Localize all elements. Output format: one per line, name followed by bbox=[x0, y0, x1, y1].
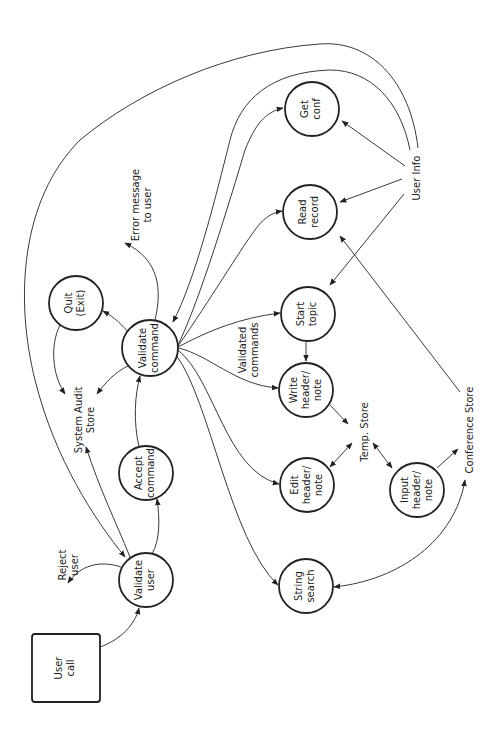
label-reject-user-line-2: user bbox=[69, 553, 80, 576]
label-validated-commands-line-1: Validated bbox=[237, 327, 248, 374]
label-conference-store: Conference Store bbox=[464, 387, 475, 474]
node-quit-line-1: Quit bbox=[63, 292, 74, 313]
edge-conference-to-read bbox=[340, 236, 460, 392]
edge-user-info-to-read bbox=[340, 179, 402, 202]
node-read-record[interactable]: Read record bbox=[283, 185, 337, 239]
node-get-conf-line-1: Get bbox=[299, 100, 310, 118]
node-get-conf-line-2: conf bbox=[311, 98, 322, 120]
edge-user-info-to-get-conf bbox=[342, 121, 405, 166]
edge-validate-command-to-quit bbox=[103, 311, 128, 332]
node-user-call[interactable]: User call bbox=[32, 634, 100, 702]
node-read-record-line-2: record bbox=[309, 196, 320, 228]
node-validate-command-line-2: command bbox=[149, 323, 160, 373]
edge-user-call-to-validate-user bbox=[100, 608, 139, 647]
edge-validate-user-to-accept bbox=[152, 499, 159, 554]
label-user-info: User Info bbox=[411, 156, 422, 201]
node-input-header-line-2: header/ bbox=[411, 470, 422, 509]
node-write-header-line-2: header/ bbox=[300, 370, 311, 409]
node-validate-user-line-2: user bbox=[145, 568, 156, 591]
node-validate-command[interactable]: Validate command bbox=[122, 320, 178, 376]
node-quit[interactable]: Quit (Exit) bbox=[49, 276, 103, 330]
edge-edit-temp bbox=[330, 443, 352, 467]
label-reject-user-line-1: Reject bbox=[57, 549, 68, 580]
edge-validate-command-to-error bbox=[125, 243, 158, 320]
label-validated-commands-line-2: commands bbox=[249, 322, 260, 377]
label-system-audit-line-2: Store bbox=[85, 407, 96, 433]
node-input-header-note[interactable]: Input header/ note bbox=[390, 463, 444, 517]
node-edit-header-note[interactable]: Edit header/ note bbox=[280, 458, 334, 512]
label-conference-store-text: Conference Store bbox=[464, 387, 475, 474]
label-error-message-line-2: to user bbox=[142, 187, 153, 223]
label-user-info-text: User Info bbox=[411, 156, 422, 201]
edge-input-temp bbox=[373, 443, 392, 468]
edge-validate-command-to-string-search bbox=[176, 355, 278, 585]
node-user-call-line-2: call bbox=[65, 659, 76, 676]
node-edit-header-line-2: header/ bbox=[301, 465, 312, 504]
node-edit-header-line-1: Edit bbox=[289, 475, 300, 494]
node-write-header-line-3: note bbox=[312, 379, 323, 402]
label-reject-user: Reject user bbox=[57, 549, 80, 580]
label-system-audit-line-1: System Audit bbox=[73, 387, 84, 454]
node-user-call-line-1: User bbox=[53, 656, 64, 680]
node-write-header-line-1: Write bbox=[288, 377, 299, 403]
edge-input-to-conference bbox=[437, 449, 458, 468]
node-quit-line-2: (Exit) bbox=[75, 290, 86, 317]
node-accept-command[interactable]: Accept command bbox=[119, 446, 173, 500]
node-edit-header-line-3: note bbox=[313, 474, 324, 497]
edge-write-to-temp bbox=[330, 405, 348, 424]
node-string-search-line-1: String bbox=[293, 571, 304, 601]
label-validated-commands: Validated commands bbox=[237, 322, 260, 377]
edge-quit-to-audit bbox=[54, 325, 65, 394]
label-system-audit-store: System Audit Store bbox=[73, 387, 96, 454]
data-flow-diagram: User call Validate user Accept command Q… bbox=[0, 0, 498, 736]
edge-validate-command-to-read bbox=[178, 211, 282, 346]
node-get-conf[interactable]: Get conf bbox=[285, 82, 339, 136]
label-error-message-line-1: Error message bbox=[130, 169, 141, 242]
edge-validate-command-to-write bbox=[178, 348, 278, 388]
node-start-topic-line-1: Start bbox=[295, 302, 306, 327]
node-input-header-line-3: note bbox=[423, 479, 434, 502]
edge-validate-command-to-get-conf bbox=[178, 108, 283, 345]
node-start-topic[interactable]: Start topic bbox=[281, 287, 335, 341]
node-accept-command-line-1: Accept bbox=[133, 456, 144, 490]
node-write-header-note[interactable]: Write header/ note bbox=[279, 363, 333, 417]
edge-validate-command-to-audit bbox=[97, 366, 128, 394]
node-validate-command-line-1: Validate bbox=[137, 328, 148, 368]
node-start-topic-line-2: topic bbox=[307, 302, 318, 327]
node-input-header-line-1: Input bbox=[399, 477, 410, 503]
node-accept-command-line-2: command bbox=[145, 448, 156, 498]
node-string-search[interactable]: String search bbox=[279, 559, 333, 613]
edge-validate-command-to-edit bbox=[178, 350, 279, 484]
edge-validate-command-to-start bbox=[178, 313, 280, 347]
edge-accept-to-validate-command bbox=[135, 376, 140, 447]
node-read-record-line-1: Read bbox=[297, 199, 308, 224]
node-validate-user[interactable]: Validate user bbox=[119, 553, 173, 607]
label-temp-store-text: Temp. Store bbox=[359, 402, 370, 462]
label-error-message: Error message to user bbox=[130, 169, 153, 242]
node-string-search-line-2: search bbox=[305, 569, 316, 602]
label-temp-store: Temp. Store bbox=[359, 402, 370, 462]
node-validate-user-line-1: Validate bbox=[133, 560, 144, 600]
